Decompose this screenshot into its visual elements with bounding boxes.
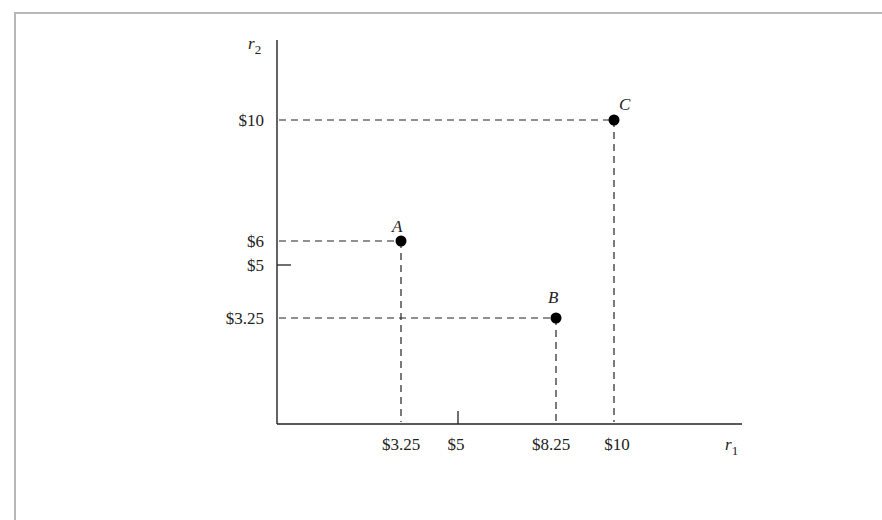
y-tick-label-6: $6 (247, 232, 264, 251)
x-tick-label-8-25: $8.25 (532, 435, 570, 454)
y-tick-label-3-25: $3.25 (226, 309, 264, 328)
scatter-diagram: A B C $10 $6 $5 $3.25 $3.25 $5 $8.25 $10… (0, 0, 882, 520)
y-tick-label-10: $10 (239, 111, 265, 130)
y-tick-label-5: $5 (247, 256, 264, 275)
y-axis-title: r2 (248, 34, 261, 57)
x-tick-label-5: $5 (448, 435, 465, 454)
x-axis-title: r1 (725, 435, 738, 458)
point-b-label: B (548, 288, 559, 307)
point-a (396, 236, 407, 247)
y-axis-title-subscript: 2 (255, 42, 262, 57)
x-tick-label-10: $10 (604, 435, 630, 454)
point-b (551, 313, 562, 324)
x-axis-title-subscript: 1 (732, 443, 739, 458)
point-c-label: C (619, 95, 631, 114)
point-c (609, 115, 620, 126)
point-a-label: A (391, 217, 403, 236)
x-tick-label-3-25: $3.25 (382, 435, 420, 454)
